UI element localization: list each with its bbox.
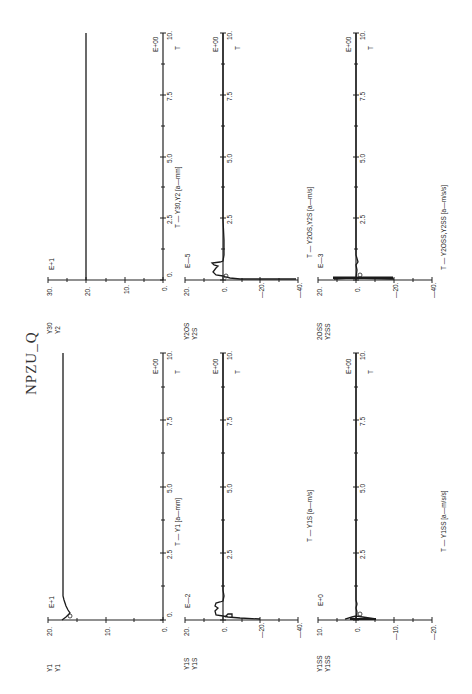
panel-title: T — Y1SS [a—m/s/s]: [440, 490, 448, 552]
svg-text:5.0: 5.0: [166, 154, 173, 163]
svg-text:7.5: 7.5: [226, 92, 233, 101]
t-axis-label: T: [367, 46, 374, 50]
svg-text:10.: 10.: [316, 627, 323, 636]
svg-text:—20.: —20.: [258, 282, 265, 298]
panel-title: T — Y30,Y2 [a—mm]: [174, 166, 182, 228]
oscillation-band: [350, 618, 376, 620]
legend-1: Y2OS: [183, 322, 190, 340]
legend-1: Y1SS: [316, 655, 323, 672]
origin-marker: [358, 273, 362, 277]
t-tick-labels: 0. 2.5 5.0 7.5 10.: [166, 31, 173, 277]
panel-title: T — Y1 [a—mm]: [174, 498, 182, 546]
oscillation-band: [333, 277, 393, 280]
t-tick-labels: 2.5 5.0 7.5 10.: [359, 351, 366, 559]
t-axis-label: T: [367, 370, 374, 374]
svg-text:0.: 0.: [354, 286, 361, 292]
svg-text:0.: 0.: [161, 626, 168, 632]
svg-text:0.: 0.: [221, 286, 228, 292]
y-exponent: E—3: [317, 253, 324, 268]
svg-text:2.5: 2.5: [226, 215, 233, 224]
y-tick-labels: 20. 0. —20. —40.: [183, 622, 303, 638]
t-axis-label: T: [234, 46, 241, 50]
panel-y1ss: 10. 0. —10. —20. 2.5 5.0 7.5 10. T E+00 …: [316, 351, 448, 672]
origin-marker: [358, 612, 362, 616]
svg-text:2.5: 2.5: [166, 550, 173, 559]
svg-text:0.: 0.: [166, 271, 173, 277]
t-exponent: E+00: [345, 358, 352, 374]
series-y2s: [212, 33, 296, 279]
t-exponent: E+00: [212, 36, 219, 52]
legend-1: Y1: [46, 664, 53, 672]
svg-text:7.5: 7.5: [166, 417, 173, 426]
svg-text:2.5: 2.5: [226, 550, 233, 559]
origin-marker: [68, 614, 72, 618]
panel-y2oss-y2ss: 20. 0. —20. —40. 2.5 5.0 7.5 10. T E+00 …: [316, 31, 448, 340]
legend-1: 2OSS: [316, 322, 323, 340]
svg-text:20.: 20.: [183, 287, 190, 296]
legend-2: Y2SS: [324, 323, 331, 340]
legend-2: Y2S: [191, 327, 198, 340]
legend-1: Y30: [46, 322, 53, 334]
legend-2: Y1SS: [324, 655, 331, 672]
y-tick-labels: 10. 0. —10. —20.: [316, 624, 437, 640]
svg-text:—20.: —20.: [258, 622, 265, 638]
t-tick-labels: 2.5 5.0 7.5 10.: [359, 31, 366, 224]
svg-text:2.5: 2.5: [166, 215, 173, 224]
svg-text:2.5: 2.5: [359, 550, 366, 559]
svg-text:30.: 30.: [46, 287, 53, 296]
t-exponent: E+00: [212, 358, 219, 374]
svg-text:10.: 10.: [359, 31, 366, 40]
y-exponent: E—5: [184, 253, 191, 268]
svg-text:—40.: —40.: [296, 622, 303, 638]
svg-text:10.: 10.: [166, 351, 173, 360]
svg-text:20.: 20.: [46, 627, 53, 636]
panel-title: T — Y1S [a—m/s]: [306, 490, 314, 542]
legend-2: Y2: [54, 326, 61, 334]
svg-text:20.: 20.: [84, 287, 91, 296]
t-tick-labels: 2.5 5.0 7.5 10.: [226, 31, 233, 224]
series-y1: [62, 353, 70, 620]
y-exponent: E+0: [317, 594, 324, 606]
svg-text:20.: 20.: [183, 627, 190, 636]
svg-text:—20.: —20.: [430, 624, 437, 640]
svg-text:5.0: 5.0: [359, 484, 366, 493]
y-exponent: E+1: [48, 596, 55, 608]
y-exponent: E—2: [184, 593, 191, 608]
svg-text:—40.: —40.: [430, 282, 437, 298]
sheet-title: NPZU_Q: [23, 331, 39, 395]
panel-y2os-y2s: 20. 0. —20. —40. 2.5 5.0 7.5 10. T E+00 …: [183, 31, 314, 340]
t-tick-labels: 2.5 5.0 7.5 10.: [226, 351, 233, 559]
y-tick-labels: 20. 0. —20. —40.: [316, 282, 437, 298]
svg-text:0.: 0.: [221, 626, 228, 632]
svg-text:—20.: —20.: [392, 282, 399, 298]
y-tick-labels: 20. 10. 0.: [46, 626, 168, 636]
svg-text:20.: 20.: [316, 287, 323, 296]
series-y1s: [215, 353, 260, 619]
svg-text:5.0: 5.0: [226, 154, 233, 163]
svg-text:—10.: —10.: [392, 624, 399, 640]
svg-text:7.5: 7.5: [226, 417, 233, 426]
t-exponent: E+00: [152, 36, 159, 52]
svg-text:0.: 0.: [161, 285, 168, 291]
panel-title: T — Y2OSS,Y2SS [a—m/s/s]: [440, 185, 448, 270]
legend-2: Y1: [54, 664, 61, 672]
svg-text:10.: 10.: [226, 31, 233, 40]
panel-y30-y2: 30. 20. 10. 0. 0. 2.5 5.0 7.5 10. T E+00…: [46, 31, 182, 334]
t-axis-label: T: [174, 46, 181, 50]
svg-text:5.0: 5.0: [359, 154, 366, 163]
t-exponent: E+00: [152, 358, 159, 374]
panel-y1s: 20. 0. —20. —40. 2.5 5.0 7.5 10. T E+00 …: [183, 351, 314, 670]
t-tick-labels: 0. 2.5 5.0 7.5 10.: [166, 351, 173, 617]
legend-2: Y1S: [191, 657, 198, 670]
svg-text:5.0: 5.0: [226, 484, 233, 493]
svg-text:10.: 10.: [166, 31, 173, 40]
y-tick-labels: 30. 20. 10. 0.: [46, 285, 168, 296]
t-axis-label: T: [174, 370, 181, 374]
svg-text:2.5: 2.5: [359, 215, 366, 224]
svg-text:10.: 10.: [123, 285, 130, 294]
panel-title: T — Y2OS,Y2S [a—m/s]: [306, 187, 314, 258]
svg-text:7.5: 7.5: [359, 417, 366, 426]
svg-text:7.5: 7.5: [166, 92, 173, 101]
legend-1: Y1S: [183, 657, 190, 670]
svg-text:0.: 0.: [354, 626, 361, 632]
